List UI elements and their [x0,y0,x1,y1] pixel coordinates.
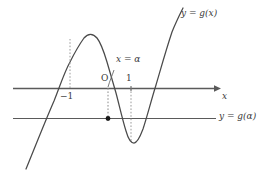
horizontal-line-label: y = g(α) [219,112,256,121]
x-axis [13,85,221,91]
x-tick-label-one: 1 [126,74,132,83]
x-axis-arrowhead [214,85,221,91]
x-tick-label-neg-one: −1 [60,92,73,101]
alpha-callout-label: x = α [116,55,140,64]
curve-label: y = g(x) [181,9,217,18]
origin-label: O [101,74,108,83]
point-alpha-g-alpha [106,116,111,121]
figure-canvas [0,0,261,171]
x-axis-label: x [222,92,227,101]
math-figure: y = g(x) y = g(α) x x = α O 1 −1 [0,0,261,171]
